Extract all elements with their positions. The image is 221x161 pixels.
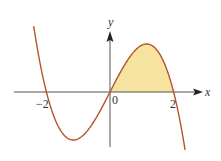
origin-label: 0 — [112, 93, 118, 107]
tick-label-neg2: −2 — [36, 97, 49, 111]
y-axis-label: y — [107, 15, 114, 29]
tick-label-2: 2 — [170, 97, 176, 111]
x-axis-label: x — [204, 85, 211, 99]
shaded-area-region — [110, 44, 174, 92]
function-graph: y x 0 −2 2 — [0, 0, 221, 161]
